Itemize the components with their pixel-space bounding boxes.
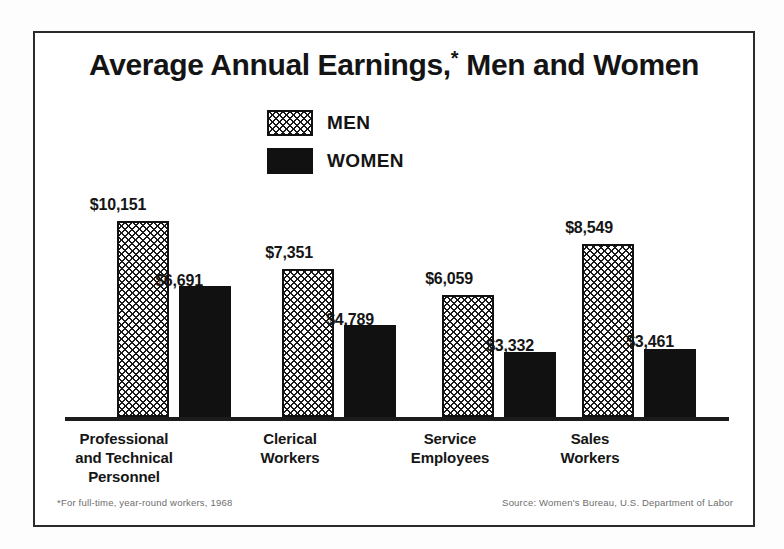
bar-women-1 — [344, 325, 396, 417]
category-line: Workers — [505, 448, 675, 467]
category-line: Workers — [205, 448, 375, 467]
bar-women-3 — [644, 349, 696, 417]
bar-value-men-3: $8,549 — [529, 219, 649, 237]
bar-group-professional: $10,151 $6,691 — [85, 33, 255, 417]
bar-men-1 — [282, 269, 334, 417]
bar-group-clerical: $7,351 $4,789 — [250, 33, 420, 417]
bar-women-2 — [504, 352, 556, 417]
category-line: Professional — [39, 429, 209, 448]
category-label-sales: Sales Workers — [505, 429, 675, 467]
category-label-professional: Professional and Technical Personnel — [39, 429, 209, 486]
scan-background: Average Annual Earnings,* Men and Women … — [0, 0, 784, 549]
x-axis-baseline — [65, 417, 729, 421]
plot-area: $10,151 $6,691 Professional and Technica… — [35, 33, 757, 529]
bar-women-0 — [179, 286, 231, 417]
bar-men-2 — [442, 295, 494, 417]
bar-men-3 — [582, 244, 634, 417]
category-line: Sales — [505, 429, 675, 448]
bar-value-men-1: $7,351 — [229, 244, 349, 262]
chart-footnote: *For full-time, year-round workers, 1968 — [57, 497, 232, 508]
category-label-clerical: Clerical Workers — [205, 429, 375, 467]
category-line: Clerical — [205, 429, 375, 448]
bar-group-sales: $8,549 $3,461 — [550, 33, 720, 417]
bar-men-0 — [117, 221, 169, 417]
category-line: and Technical — [39, 448, 209, 467]
chart-source: Source: Women's Bureau, U.S. Department … — [502, 497, 733, 508]
bar-value-men-0: $10,151 — [58, 196, 178, 214]
bar-value-men-2: $6,059 — [389, 270, 509, 288]
category-line: Personnel — [39, 467, 209, 486]
chart-panel: Average Annual Earnings,* Men and Women … — [33, 31, 755, 527]
